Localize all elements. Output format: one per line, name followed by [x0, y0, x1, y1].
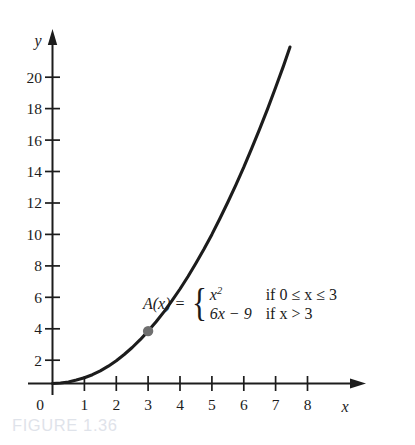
case-expression-1-base: x: [210, 286, 217, 303]
y-tick-label: 12: [27, 194, 43, 211]
case-expression-1: x2: [210, 286, 252, 303]
x-tick-label: 5: [208, 396, 216, 413]
plot-area: 2 4 6 8 10 12 14 16 18 20 1 2 3 4: [0, 0, 415, 445]
case-condition-1: if 0 ≤ x ≤ 3: [266, 287, 337, 303]
formula-equals: =: [174, 296, 190, 312]
y-tick-label: 10: [27, 226, 43, 243]
x-tick-label: 2: [112, 396, 120, 413]
data-point-marker: [143, 326, 153, 336]
axis-lines: [28, 29, 366, 395]
case-condition-2: if x > 3: [266, 306, 337, 322]
x-axis-label: x: [340, 398, 348, 415]
x-tick-label: 6: [240, 396, 248, 413]
formula-lhs: A(x): [143, 296, 174, 312]
x-tick-label: 4: [176, 396, 184, 413]
y-tick-label: 4: [34, 320, 42, 337]
function-curve: [53, 47, 291, 384]
case-expression-2: 6x − 9: [210, 306, 252, 322]
formula-cases: x2 if 0 ≤ x ≤ 3 6x − 9 if x > 3: [210, 286, 337, 322]
x-tick-label: 7: [272, 396, 280, 413]
x-tick-label: 3: [144, 396, 152, 413]
y-tick-label: 16: [27, 132, 43, 149]
x-tick-label: 8: [304, 396, 312, 413]
origin-label: 0: [36, 396, 44, 413]
y-tick-label: 20: [27, 69, 43, 86]
y-tick-label: 8: [34, 257, 42, 274]
figure-container: 2 4 6 8 10 12 14 16 18 20 1 2 3 4: [0, 0, 415, 445]
y-tick-label: 18: [27, 100, 43, 117]
y-tick-label: 14: [27, 163, 43, 180]
y-tick-label: 2: [34, 352, 42, 369]
x-tick-label-group: 1 2 3 4 5 6 7 8 0: [36, 396, 312, 413]
y-tick-label: 6: [34, 289, 42, 306]
formula-brace: {: [192, 287, 207, 320]
y-axis-arrowhead: [48, 29, 57, 45]
figure-caption: FIGURE 1.36: [12, 416, 118, 435]
y-tick-label-group: 2 4 6 8 10 12 14 16 18 20: [27, 69, 43, 369]
x-axis-arrowhead: [350, 379, 366, 389]
piecewise-formula: A(x) = { x2 if 0 ≤ x ≤ 3 6x − 9 if x > 3: [143, 286, 337, 322]
x-tick-label: 1: [81, 396, 89, 413]
y-axis-label: y: [32, 32, 42, 50]
case-expression-1-exponent: 2: [217, 285, 222, 296]
